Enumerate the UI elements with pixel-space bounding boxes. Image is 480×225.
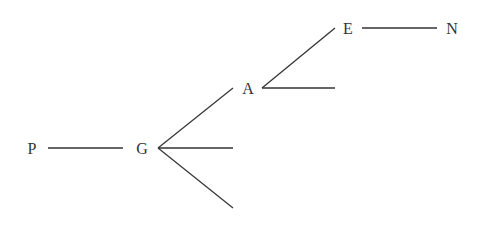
edge-a-e [262, 28, 335, 88]
tree-diagram: P G A E N [0, 0, 480, 225]
node-a: A [242, 80, 254, 97]
node-g: G [136, 140, 148, 157]
node-p: P [28, 140, 37, 157]
edge-g-a [158, 88, 233, 148]
node-n: N [446, 20, 458, 37]
node-e: E [343, 20, 353, 37]
edge-g-empty-2 [158, 148, 233, 208]
